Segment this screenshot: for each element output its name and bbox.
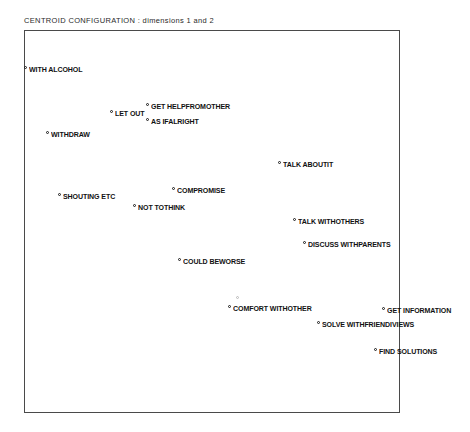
scatter-point: FIND SOLUTIONS: [374, 348, 441, 356]
scatter-point: [236, 296, 241, 304]
scatter-point-label: AS IFALRIGHT: [151, 118, 199, 126]
scatter-point-marker-icon: [303, 241, 307, 245]
scatter-point: COULD BEWORSE: [178, 258, 249, 266]
scatter-point-label: SHOUTING ETC: [63, 193, 115, 201]
scatter-point-label: NOT TOTHINK: [138, 204, 185, 212]
scatter-point: WITH ALCOHOL: [24, 66, 86, 74]
scatter-point: TALK ABOUTIT: [278, 161, 336, 169]
scatter-point-marker-icon: [172, 187, 176, 191]
scatter-point: GET INFORMATION: [382, 307, 455, 315]
scatter-point: NOT TOTHINK: [133, 204, 188, 212]
scatter-point-marker-icon: [46, 131, 50, 135]
scatter-point-marker-icon: [382, 307, 386, 311]
scatter-point: TALK WITHOTHERS: [293, 218, 368, 226]
scatter-point-marker-icon: [178, 258, 182, 262]
scatter-point: AS IFALRIGHT: [146, 118, 202, 126]
scatter-point-label: COULD BEWORSE: [183, 258, 245, 266]
centroid-configuration-screenshot: CENTROID CONFIGURATION : dimensions 1 an…: [0, 0, 470, 432]
scatter-point-marker-icon: [236, 296, 240, 300]
scatter-point-label: COMPROMISE: [177, 187, 225, 195]
scatter-point-marker-icon: [146, 118, 150, 122]
scatter-point-marker-icon: [146, 103, 150, 107]
scatter-point-marker-icon: [24, 66, 28, 70]
scatter-point-label: TALK WITHOTHERS: [298, 218, 364, 226]
scatter-point-marker-icon: [110, 110, 114, 114]
scatter-point-label: FIND SOLUTIONS: [379, 348, 437, 356]
scatter-point-marker-icon: [317, 321, 321, 325]
scatter-point: SOLVE WITHFRIENDIVIEWS: [317, 321, 420, 329]
scatter-point-label: GET INFORMATION: [387, 307, 451, 315]
scatter-point-marker-icon: [58, 193, 62, 197]
scatter-point: SHOUTING ETC: [58, 193, 118, 201]
scatter-plot-area: WITH ALCOHOLGET HELPFROMOTHERLET OUTAS I…: [0, 0, 470, 432]
scatter-point-marker-icon: [278, 161, 282, 165]
scatter-point: WITHDRAW: [46, 131, 92, 139]
scatter-point-marker-icon: [374, 348, 378, 352]
scatter-point: LET OUT: [110, 110, 146, 118]
scatter-point-label: DISCUSS WITHPARENTS: [308, 241, 391, 249]
scatter-point-label: LET OUT: [115, 110, 145, 118]
scatter-point-label: SOLVE WITHFRIENDIVIEWS: [322, 321, 414, 329]
scatter-point: COMPROMISE: [172, 187, 228, 195]
scatter-point-label: GET HELPFROMOTHER: [151, 103, 230, 111]
scatter-point-marker-icon: [293, 218, 297, 222]
scatter-point-label: WITH ALCOHOL: [29, 66, 82, 74]
scatter-point-marker-icon: [228, 305, 232, 309]
scatter-point-label: WITHDRAW: [51, 131, 90, 139]
scatter-point-label: TALK ABOUTIT: [283, 161, 333, 169]
scatter-point: GET HELPFROMOTHER: [146, 103, 235, 111]
scatter-point: COMFORT WITHOTHER: [228, 305, 317, 313]
scatter-point-marker-icon: [133, 204, 137, 208]
scatter-point: DISCUSS WITHPARENTS: [303, 241, 396, 249]
scatter-point-label: COMFORT WITHOTHER: [233, 305, 312, 313]
